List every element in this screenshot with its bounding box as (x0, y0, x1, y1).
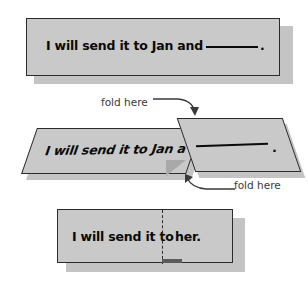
top-strip-card: I will send it to Jan and. (26, 18, 280, 76)
fold-here-arrow-bottom-icon (180, 170, 236, 196)
top-strip-sentence: I will send it to Jan and. (46, 38, 265, 53)
fold-here-label-top: fold here (101, 96, 148, 108)
fold-tab-triangle (166, 160, 186, 176)
top-strip-blank-line (206, 46, 258, 48)
bottom-strip-left-text: I will send it to (72, 229, 174, 244)
bottom-strip-fold-dashed-line (162, 210, 163, 264)
fold-here-label-bottom: fold here (234, 179, 281, 191)
top-strip-period: . (260, 38, 265, 53)
top-strip-text-before-blank: I will send it to Jan and (46, 38, 203, 53)
bottom-strip-card: I will send it to her. (57, 209, 233, 263)
fold-here-arrow-top-icon (152, 94, 202, 120)
figure-canvas: I will send it to Jan and. I will send i… (0, 0, 308, 289)
bottom-strip-right-text: her. (175, 229, 201, 244)
middle-right-flap-period: . (272, 140, 277, 155)
bottom-strip-fold-tab (162, 259, 182, 263)
middle-left-panel-text: I will send it to Jan a (43, 141, 189, 158)
